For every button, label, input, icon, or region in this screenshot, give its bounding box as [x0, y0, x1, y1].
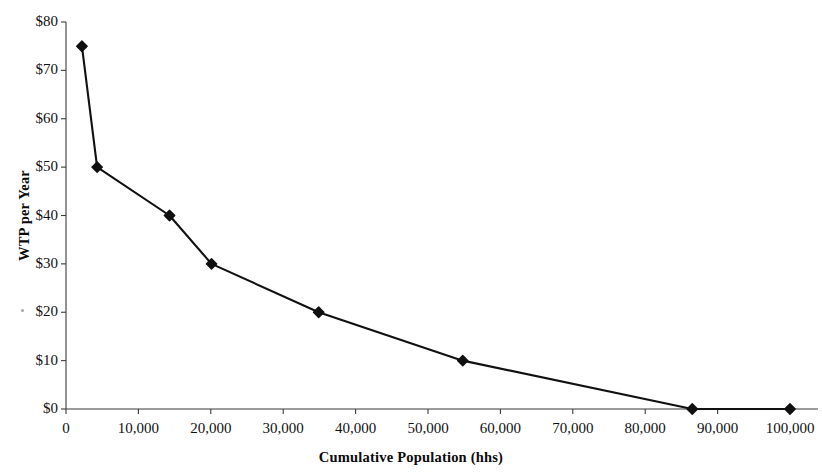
- y-axis-tick-label: $10: [0, 352, 58, 369]
- data-point-marker: [313, 307, 323, 317]
- y-axis-tick-label: $70: [0, 61, 58, 78]
- chart-plot-area: [0, 0, 822, 473]
- chart-axes: [61, 22, 818, 414]
- chart-series-line: [82, 46, 790, 409]
- y-axis-title: WTP per Year: [16, 146, 33, 286]
- y-axis-tick-label: $60: [0, 110, 58, 127]
- chart-series-markers: [77, 41, 795, 414]
- data-point-marker: [458, 355, 468, 365]
- chart-container: $0$10$20$30$40$50$60$70$80 010,00020,000…: [0, 0, 822, 473]
- scan-artifact-speck: [21, 309, 24, 312]
- x-axis-title: Cumulative Population (hhs): [0, 449, 822, 466]
- y-axis-tick-label: $80: [0, 13, 58, 30]
- y-axis-tick-label: $20: [0, 303, 58, 320]
- x-axis-tick-label: 100,000: [740, 420, 822, 437]
- y-axis-tick-label: $0: [0, 400, 58, 417]
- data-point-marker: [785, 404, 795, 414]
- series-line: [82, 46, 790, 409]
- data-point-marker: [77, 41, 87, 51]
- data-point-marker: [687, 404, 697, 414]
